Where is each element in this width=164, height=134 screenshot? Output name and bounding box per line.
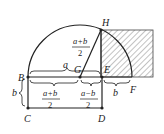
label-E: E: [103, 64, 110, 75]
label-GE-numerator: a−b: [81, 88, 95, 98]
label-H: H: [101, 17, 110, 28]
label-GE-denominator: 2: [86, 100, 90, 110]
label-G: G: [74, 64, 81, 75]
brace-b-left: [19, 79, 25, 106]
point-D: [100, 106, 103, 109]
brace-BG: [30, 80, 78, 86]
label-BG-numerator: a+b: [43, 88, 57, 98]
label-HG-denominator: 2: [78, 48, 82, 58]
label-b-right: b: [113, 87, 118, 98]
point-E: [100, 75, 103, 78]
point-G: [78, 75, 81, 78]
label-a: a: [63, 59, 68, 70]
brace-EF: [104, 80, 130, 86]
label-b-left: b: [12, 87, 17, 98]
label-HG-numerator: a+b: [73, 36, 87, 46]
point-H: [99, 28, 102, 31]
geometry-diagram: H B G E F C D a b b a+b 2 a+b 2 a−b 2: [0, 0, 164, 134]
label-B: B: [18, 72, 24, 83]
brace-GE: [81, 80, 101, 86]
label-BG-denominator: 2: [48, 100, 52, 110]
label-C: C: [24, 113, 31, 124]
label-F: F: [129, 84, 137, 95]
point-C: [26, 106, 29, 109]
label-D: D: [97, 113, 106, 124]
point-B: [26, 75, 29, 78]
